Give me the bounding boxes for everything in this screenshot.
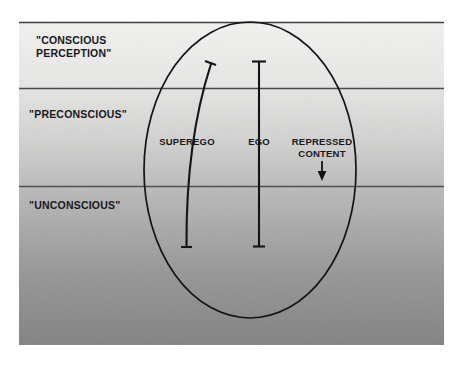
structure-label-ego: EGO bbox=[248, 136, 270, 148]
zone-label-unconscious: "UNCONSCIOUS" bbox=[29, 199, 120, 212]
flow-label-repressed-content: REPRESSED CONTENT bbox=[292, 136, 352, 159]
structure-label-superego: SUPEREGO bbox=[159, 136, 214, 148]
panel-grain-overlay bbox=[19, 22, 444, 345]
zone-label-conscious-perception: "CONSCIOUS PERCEPTION" bbox=[36, 34, 111, 60]
zone-label-preconscious: "PRECONSCIOUS" bbox=[29, 108, 127, 121]
diagram-root: "CONSCIOUS PERCEPTION" "PRECONSCIOUS" "U… bbox=[0, 0, 463, 366]
